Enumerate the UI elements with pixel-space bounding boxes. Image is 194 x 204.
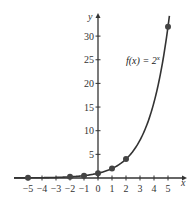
x-axis-label: x [180, 177, 186, 188]
y-tick-label: 20 [84, 78, 94, 89]
data-point [165, 24, 171, 30]
y-tick-label: 5 [89, 149, 94, 160]
x-tick-label: −3 [51, 183, 62, 194]
x-tick-label: −5 [23, 183, 34, 194]
data-point [67, 174, 73, 180]
exponential-chart: −5−4−3−2−101234551015202530 y x f(x) = 2… [0, 0, 194, 204]
y-tick-label: 25 [84, 54, 94, 65]
y-axis-arrow-icon [96, 13, 101, 18]
x-tick-label: −1 [79, 183, 90, 194]
y-tick-label: 15 [84, 102, 94, 113]
data-point [123, 156, 129, 162]
x-tick-label: 3 [138, 183, 143, 194]
y-tick-label: 30 [84, 31, 94, 42]
x-tick-label: −4 [37, 183, 48, 194]
y-axis-label: y [87, 11, 93, 22]
function-label: f(x) = 2x [126, 54, 161, 67]
axes [14, 13, 187, 181]
x-tick-label: 0 [96, 183, 101, 194]
data-point [25, 175, 31, 181]
x-tick-label: 2 [124, 183, 129, 194]
data-point [95, 170, 101, 176]
x-tick-label: 4 [152, 183, 157, 194]
data-point [81, 173, 87, 179]
x-tick-label: 5 [166, 183, 171, 194]
y-tick-label: 10 [84, 125, 94, 136]
data-point [109, 166, 115, 172]
x-tick-label: 1 [110, 183, 115, 194]
x-tick-label: −2 [65, 183, 76, 194]
